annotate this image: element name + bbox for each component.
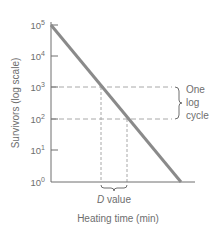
survivor-line: [51, 25, 181, 182]
x-axis-title: Heating time (min): [77, 213, 159, 224]
log-cycle-label-line-3: cycle: [186, 110, 209, 121]
log-cycle-label-line-1: One: [186, 84, 205, 95]
y-axis-title: Survivors (log scale): [10, 58, 21, 149]
y-tick-label-1: 101: [31, 144, 46, 156]
log-cycle-brace: [175, 87, 182, 119]
y-tick-label-4: 104: [31, 50, 46, 62]
survivor-curve-chart: 105 104 103 102 101 100 Survivors (log s…: [0, 0, 220, 231]
y-tick-labels: 105 104 103 102 101 100: [31, 19, 46, 188]
y-tick-label-3: 103: [31, 81, 46, 93]
log-cycle-label-line-2: log: [186, 97, 199, 108]
y-tick-label-0: 100: [31, 176, 46, 188]
y-tick-label-5: 105: [31, 19, 46, 31]
d-value-brace: [101, 185, 127, 191]
axes: [51, 22, 195, 182]
log-cycle-label: One log cycle: [186, 84, 209, 121]
d-value-label: D value: [97, 194, 131, 205]
y-tick-label-2: 102: [31, 113, 46, 125]
guide-lines: [51, 87, 172, 182]
